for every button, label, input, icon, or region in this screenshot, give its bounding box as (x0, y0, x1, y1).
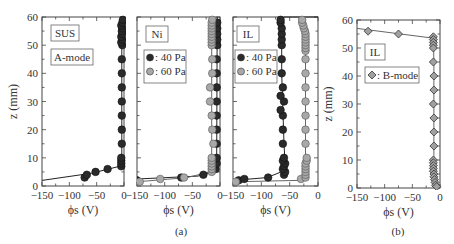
svg-text:SUS: SUS (55, 27, 75, 39)
x-tick-label: −150 (222, 189, 245, 201)
panel-label-box: SUS (51, 25, 79, 41)
legend-label: : 40 Pa (246, 51, 277, 63)
y-axis-title: z (mm) (321, 87, 335, 122)
x-axis-title: ϕs (V) (260, 203, 291, 217)
data-point (210, 140, 218, 148)
caption-b: (b) (392, 225, 405, 238)
data-point (279, 84, 287, 92)
data-point (200, 171, 208, 179)
data-point (277, 16, 285, 24)
x-axis-title: ϕs (V) (383, 205, 414, 219)
data-point (118, 112, 126, 120)
data-point (302, 112, 310, 120)
x-tick-label: 0 (315, 189, 321, 201)
legend-marker-icon (147, 54, 154, 61)
caption-a: (a) (175, 225, 188, 238)
svg-text:Ni: Ni (152, 28, 163, 40)
legend-label: : 40 Pa (155, 51, 186, 63)
y-tick-label: 0 (348, 182, 354, 194)
x-tick-label: −50 (184, 189, 202, 201)
data-point (303, 154, 311, 162)
svg-text:IL: IL (370, 46, 381, 58)
y-tick-label: 60 (27, 11, 39, 23)
data-point (232, 178, 240, 186)
x-axis-title: ϕs (V) (163, 203, 194, 217)
y-tick-label: 30 (342, 98, 354, 110)
data-point (277, 92, 285, 100)
data-point (302, 126, 310, 134)
plot-frame (42, 17, 124, 186)
x-tick-label: −50 (281, 189, 299, 201)
data-point (278, 70, 286, 78)
data-point (156, 175, 164, 183)
data-point (119, 16, 127, 24)
legend-label: : B-mode (377, 69, 418, 81)
y-tick-label: 0 (33, 180, 39, 192)
legend-marker-icon (147, 68, 154, 75)
y-tick-label: 50 (342, 42, 354, 54)
data-point (118, 98, 126, 106)
y-tick-label: 10 (27, 152, 39, 164)
data-point (118, 70, 126, 78)
data-point (117, 154, 125, 162)
data-point (83, 171, 91, 179)
x-tick-label: 0 (437, 191, 443, 203)
data-point (302, 84, 310, 92)
data-point (302, 140, 310, 148)
data-point (208, 154, 216, 162)
data-point (118, 55, 126, 63)
data-point (180, 174, 188, 182)
y-tick-label: 20 (342, 126, 354, 138)
x-tick-label: −100 (153, 189, 176, 201)
x-axis-title: ϕs (V) (68, 203, 99, 217)
data-point (208, 55, 216, 63)
data-point (206, 84, 214, 92)
panel-il: −150−100−500ϕs (V)IL: 40 Pa: 60 Pa (222, 16, 322, 217)
x-tick-label: −100 (373, 191, 396, 203)
data-point (118, 126, 126, 134)
data-point (208, 126, 216, 134)
legend: : B-mode (365, 67, 419, 83)
data-point (136, 178, 144, 186)
y-tick-label: 60 (342, 14, 354, 26)
y-tick-label: 40 (342, 70, 354, 82)
y-tick-label: 20 (27, 124, 39, 136)
panel-ni: −150−100−500ϕs (V)Ni: 40 Pa: 60 Pa (126, 16, 224, 217)
data-point (302, 70, 310, 78)
panel-label-box: IL (237, 26, 259, 42)
y-tick-label: 50 (27, 39, 39, 51)
data-point (298, 16, 306, 24)
data-point (302, 98, 310, 106)
data-point (280, 154, 288, 162)
y-tick-label: 40 (27, 67, 39, 79)
svg-text:A-mode: A-mode (54, 51, 90, 63)
figure: −150−100−5000102030405060z (mm)ϕs (V)SUS… (0, 0, 454, 244)
data-point (104, 165, 112, 173)
panel-label-box: Ni (146, 26, 168, 42)
panel-label-box: IL (365, 44, 385, 60)
y-tick-label: 10 (342, 154, 354, 166)
data-point (302, 55, 310, 63)
svg-text:IL: IL (243, 28, 254, 40)
data-point (208, 112, 216, 120)
data-point (206, 98, 214, 106)
x-tick-label: −100 (58, 189, 81, 201)
data-point (118, 84, 126, 92)
legend: : 40 Pa: 60 Pa (144, 50, 186, 83)
legend-marker-icon (238, 54, 245, 61)
data-point (277, 106, 285, 114)
y-axis-title: z (mm) (6, 84, 20, 119)
legend: : 40 Pa: 60 Pa (235, 50, 277, 83)
y-tick-label: 30 (27, 96, 39, 108)
data-point (279, 140, 287, 148)
data-point (208, 16, 216, 24)
x-tick-label: −100 (250, 189, 273, 201)
legend-label: : 60 Pa (155, 65, 186, 77)
data-point (118, 140, 126, 148)
data-point (279, 126, 287, 134)
data-point (264, 174, 272, 182)
data-point (208, 70, 216, 78)
data-point (241, 175, 249, 183)
legend-marker-icon (238, 68, 245, 75)
panel-il-b: −150−100−5000102030405060z (mm)ϕs (V)IL:… (321, 14, 443, 219)
